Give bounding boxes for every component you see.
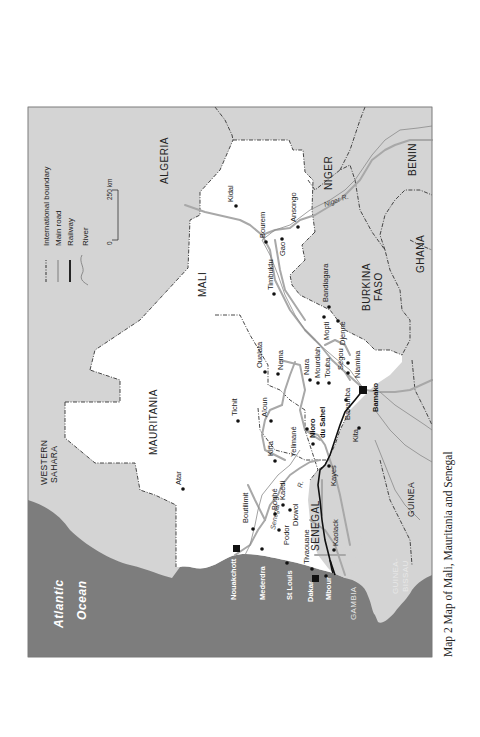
label-kiffa: Kiffa: [266, 440, 275, 456]
label-guinea-bissau-2: BISSAU: [401, 560, 410, 592]
label-niger: NIGER: [323, 156, 334, 190]
capital-marker-nouakchott: [233, 545, 240, 552]
label-banamba: Banamba: [343, 387, 352, 420]
scale-end: 250 km: [106, 179, 113, 200]
label-burkina: BURKINA: [361, 263, 372, 311]
label-mauritania: MAURITANIA: [148, 389, 159, 455]
label-senegal: SENEGAL: [310, 500, 321, 551]
label-djenne: Djenne: [338, 321, 347, 345]
label-nouakchott: Nouakchott: [229, 558, 238, 600]
label-gao: Gao: [278, 242, 287, 256]
label-diowol: Diowol: [291, 503, 300, 526]
label-mederdra: Mederdra: [258, 565, 267, 600]
label-bamako: Bamako: [371, 382, 380, 412]
label-benin: BENIN: [407, 143, 418, 176]
label-kaedi: Kaédi: [278, 480, 287, 500]
label-bandiagara: Bandiagara: [321, 263, 330, 302]
label-segou: Ségou: [336, 348, 345, 370]
label-st-louis: St Louis: [285, 570, 294, 600]
label-nioro-2: du Sahel: [318, 407, 327, 438]
label-nema: Nema: [276, 349, 285, 370]
label-guinea-bissau-1: GUINEA-: [391, 558, 400, 594]
label-nara: Nara: [302, 358, 311, 375]
label-algeria: ALGERIA: [159, 137, 170, 184]
label-western-sahara-1: WESTERN: [39, 440, 49, 485]
label-tivaouane: Tivaouane: [302, 529, 311, 564]
label-senegal-r: R.: [296, 480, 304, 488]
label-kaolack: Kaolack: [331, 519, 340, 546]
label-western-sahara-2: SAHARA: [49, 446, 59, 483]
label-timbuktu: Timbuktu: [266, 259, 275, 290]
map-caption: Map 2 Map of Mali, Mauritania and Senega…: [442, 451, 455, 657]
capital-marker-dakar: [312, 575, 319, 582]
label-atlantic: Atlantic: [52, 579, 66, 629]
label-ghana: GHANA: [415, 235, 426, 273]
label-mali: MALI: [197, 272, 208, 297]
label-guinea: GUINEA: [406, 482, 416, 517]
label-ocean: Ocean: [75, 580, 89, 620]
label-nioro-1: Nioro: [308, 418, 317, 438]
label-atar: Atar: [174, 471, 183, 485]
label-gambia: GAMBIA: [349, 586, 358, 620]
label-touba: Touba: [323, 357, 332, 378]
label-niamina: Niamina: [353, 350, 362, 378]
legend-international-boundary: International boundary: [42, 166, 51, 246]
label-kita: Kita: [351, 428, 360, 442]
label-mourdiah: Mourdiah: [313, 347, 322, 378]
label-boutilimit: Boutilimit: [241, 492, 250, 523]
legend-river: River: [81, 227, 90, 246]
map-figure: International boundary Main road Railway…: [0, 0, 480, 737]
label-podor: Podor: [282, 524, 291, 545]
label-tichit: Tichit: [230, 397, 239, 416]
label-ansongo: Ansongo: [289, 192, 298, 222]
capital-marker-bamako: [359, 386, 367, 394]
label-dakar: Dakar: [306, 581, 315, 602]
label-faso-line2: FASO: [373, 272, 384, 301]
label-kayes: Kayes: [329, 465, 338, 486]
label-mbour: Mbour: [324, 577, 333, 600]
legend-railway: Railway: [66, 218, 75, 246]
label-yelimane: Yelimané: [289, 426, 298, 457]
label-kidal: Kidal: [226, 185, 235, 202]
label-aioun: Aïoun: [260, 397, 269, 417]
label-bourem: Bourem: [258, 212, 267, 238]
legend-main-road: Main road: [54, 210, 63, 246]
label-mopti: Mopti: [322, 321, 331, 340]
label-oualata: Oualata: [255, 341, 264, 368]
scale-start: 0: [106, 241, 113, 245]
